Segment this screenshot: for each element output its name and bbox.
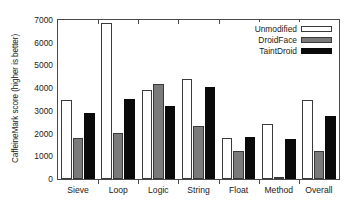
legend-item-taintdroid: TaintDroid	[224, 46, 332, 56]
y-tick-label: 6000	[19, 39, 53, 47]
bar-float-taintdroid	[245, 137, 256, 179]
bar-loop-droidface	[113, 133, 124, 179]
chart-legend: Unmodified DroidFace TaintDroid	[222, 22, 334, 59]
bar-overall-unmodified	[302, 100, 313, 180]
bar-method-unmodified	[262, 124, 273, 179]
x-tick-mark	[219, 180, 220, 184]
y-tick-label: 0	[19, 175, 53, 183]
legend-label-unmodified: Unmodified	[255, 24, 297, 34]
x-tick-mark	[299, 180, 300, 184]
y-tick-label: 5000	[19, 61, 53, 69]
y-axis-title: CaffeineMark score (higher is better)	[11, 19, 20, 179]
legend-label-taintdroid: TaintDroid	[259, 46, 297, 56]
x-tick-label-logic: Logic	[148, 185, 169, 195]
x-tick-label-method: Method	[264, 185, 293, 195]
y-tick-label: 3000	[19, 107, 53, 115]
y-tick-label: 7000	[19, 16, 53, 24]
bar-loop-taintdroid	[124, 99, 135, 179]
x-tick-label-sieve: Sieve	[67, 185, 89, 195]
bar-logic-droidface	[153, 84, 164, 179]
bar-method-droidface	[274, 177, 285, 179]
legend-label-droidface: DroidFace	[258, 35, 297, 45]
x-tick-label-loop: Loop	[109, 185, 128, 195]
bar-overall-taintdroid	[325, 116, 336, 179]
bar-overall-droidface	[314, 151, 325, 179]
x-tick-mark	[138, 180, 139, 184]
bar-float-droidface	[233, 151, 244, 179]
bar-string-unmodified	[182, 79, 193, 179]
y-tick-label: 1000	[19, 152, 53, 160]
caffeinemark-bar-chart: CaffeineMark score (higher is better) 01…	[0, 0, 353, 208]
x-tick-label-float: Float	[229, 185, 248, 195]
y-tick-label: 2000	[19, 129, 53, 137]
x-tick-label-overall: Overall	[305, 185, 332, 195]
bar-logic-unmodified	[142, 90, 153, 179]
bar-sieve-taintdroid	[84, 113, 95, 179]
bar-loop-unmodified	[101, 23, 112, 180]
bar-logic-taintdroid	[165, 106, 176, 179]
y-tick-label: 4000	[19, 84, 53, 92]
bar-sieve-unmodified	[61, 100, 72, 179]
legend-item-unmodified: Unmodified	[224, 24, 332, 34]
bar-float-unmodified	[222, 138, 233, 179]
bar-string-taintdroid	[205, 87, 216, 179]
x-tick-mark	[259, 180, 260, 184]
bar-method-taintdroid	[285, 139, 296, 179]
x-tick-mark	[178, 180, 179, 184]
legend-item-droidface: DroidFace	[224, 35, 332, 45]
legend-swatch-taintdroid	[301, 48, 332, 54]
bar-string-droidface	[193, 126, 204, 179]
bar-sieve-droidface	[73, 138, 84, 179]
legend-swatch-droidface	[301, 37, 332, 43]
x-tick-mark	[98, 180, 99, 184]
legend-swatch-unmodified	[301, 26, 332, 32]
x-tick-label-string: String	[187, 185, 209, 195]
